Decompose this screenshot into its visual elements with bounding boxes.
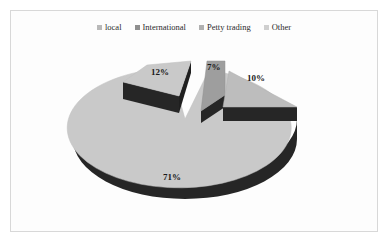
pie-chart-svg [11,11,379,233]
pie-label-international: 12% [151,68,169,77]
pie-chart: 12% 7% 10% 71% [11,11,379,233]
pie-label-petty-trading: 10% [247,74,265,83]
chart-frame: local International Petty trading Other [10,10,378,232]
pie-slice-petty-trading-side [223,107,297,121]
pie-label-local: 71% [163,173,181,182]
pie-label-other: 7% [207,63,221,72]
